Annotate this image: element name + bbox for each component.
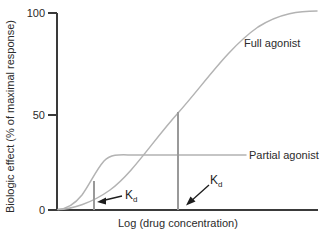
kd-annotation-partial: K d: [97, 188, 137, 205]
kd-arrowhead-partial: [97, 198, 106, 205]
x-axis-title: Log (drug concentration): [118, 217, 238, 229]
y-axis-title: Biologic effect (% of maximal response): [4, 20, 16, 213]
y-tick-label-50: 50: [33, 109, 45, 121]
kd-subscript-partial: d: [133, 195, 137, 204]
full-agonist-label: Full agonist: [244, 37, 300, 49]
y-tick-label-0: 0: [39, 204, 45, 216]
kd-subscript-full: d: [218, 180, 222, 189]
kd-label-full: K: [210, 173, 218, 187]
kd-annotation-full: K d: [186, 173, 222, 206]
y-tick-label-100: 100: [27, 7, 45, 19]
kd-label-partial: K: [125, 188, 133, 202]
chart-canvas: 100 50 0 Log (drug concentration) Biolog…: [0, 0, 325, 233]
partial-agonist-label: Partial agonist: [249, 149, 319, 161]
dose-response-chart: 100 50 0 Log (drug concentration) Biolog…: [0, 0, 325, 233]
